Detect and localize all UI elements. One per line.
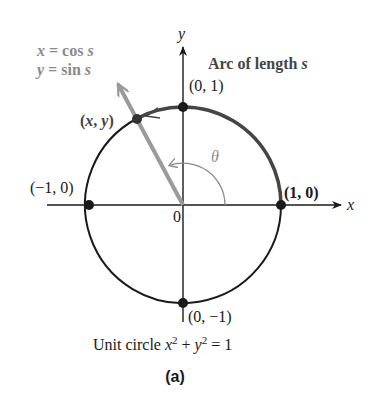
eq1-var: x xyxy=(36,42,45,59)
theta-label: θ xyxy=(211,148,219,165)
subfigure-label: (a) xyxy=(165,368,185,385)
point-bottom xyxy=(178,298,188,308)
caption-x: x xyxy=(164,336,172,353)
point-top xyxy=(178,102,188,112)
origin-label: 0 xyxy=(173,208,181,225)
x-axis-label: x xyxy=(346,196,354,213)
caption-plus: + xyxy=(178,336,195,353)
eq2-param: s xyxy=(84,61,91,78)
arc-length-label: Arc of length s xyxy=(208,55,308,73)
unit-circle-figure: x = cos s y = sin s Arc of length s y x … xyxy=(0,0,371,404)
eq1-rest: = cos xyxy=(45,42,87,59)
paren-close: ) xyxy=(108,112,113,130)
point-left xyxy=(84,200,94,210)
radius-vector xyxy=(118,84,183,205)
label-left-point: (−1, 0) xyxy=(30,179,74,197)
eq2-rest: = sin xyxy=(44,61,85,78)
moving-x: x xyxy=(84,112,93,129)
comma: , xyxy=(93,112,101,129)
label-bottom-point: (0, −1) xyxy=(188,308,232,326)
point-xy xyxy=(132,114,142,124)
label-moving-point: (x, y) xyxy=(80,112,114,130)
equation-x-cos: x = cos s xyxy=(36,42,94,59)
arc-label-text: Arc of length xyxy=(208,55,301,73)
label-right-point: (1, 0) xyxy=(284,184,319,202)
label-top-point: (0, 1) xyxy=(189,77,224,95)
caption-prefix: Unit circle xyxy=(93,336,165,353)
caption: Unit circle x2 + y2 = 1 xyxy=(93,334,232,354)
point-right xyxy=(276,200,286,210)
equation-y-sin: y = sin s xyxy=(35,61,91,79)
eq1-param: s xyxy=(86,42,93,59)
caption-suffix: = 1 xyxy=(207,336,232,353)
y-axis-label: y xyxy=(176,25,186,43)
arc-label-param: s xyxy=(300,55,307,72)
